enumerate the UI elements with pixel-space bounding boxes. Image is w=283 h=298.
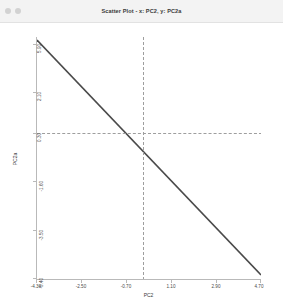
y-axis-title-text: PC2a — [12, 152, 18, 165]
y-tick-label: -1.60 — [39, 181, 44, 191]
scatter-series-line — [37, 37, 261, 279]
y-tick-label: 2.10 — [37, 92, 42, 101]
chart-figure: -4.30 -2.50 -0.70 1.10 2.90 4.70 5.90 2.… — [0, 23, 283, 294]
y-axis-title: PC2a — [10, 37, 20, 280]
y-tick-mark — [33, 278, 36, 279]
y-tick-mark — [33, 230, 36, 231]
y-tick-label: 5.90 — [37, 44, 42, 53]
window-title: Scatter Plot - x: PC2, y: PC2a — [0, 0, 283, 23]
crosshair-horizontal-line — [37, 133, 261, 134]
window-title-bar: Scatter Plot - x: PC2, y: PC2a — [0, 0, 283, 23]
x-tick-mark — [81, 280, 82, 283]
x-axis-title: PC2 — [36, 292, 261, 298]
plot-area[interactable] — [36, 37, 261, 280]
x-tick-label: -2.50 — [76, 284, 86, 289]
y-tick-label: -5.40 — [39, 278, 44, 288]
x-tick-mark — [126, 280, 127, 283]
x-tick-mark — [216, 280, 217, 283]
y-tick-label: -3.50 — [39, 230, 44, 240]
x-tick-label: -0.70 — [121, 284, 131, 289]
crosshair-vertical-line — [143, 37, 144, 280]
y-tick-mark — [33, 44, 36, 45]
x-tick-mark — [36, 280, 37, 283]
y-tick-mark — [33, 92, 36, 93]
x-tick-mark — [171, 280, 172, 283]
x-tick-label: 2.90 — [212, 284, 221, 289]
x-tick-label: 4.70 — [255, 284, 264, 289]
x-tick-label: 1.10 — [167, 284, 176, 289]
y-tick-label: 0.30 — [37, 133, 42, 142]
x-tick-mark — [260, 280, 261, 283]
y-tick-mark — [33, 181, 36, 182]
y-tick-mark — [33, 133, 36, 134]
